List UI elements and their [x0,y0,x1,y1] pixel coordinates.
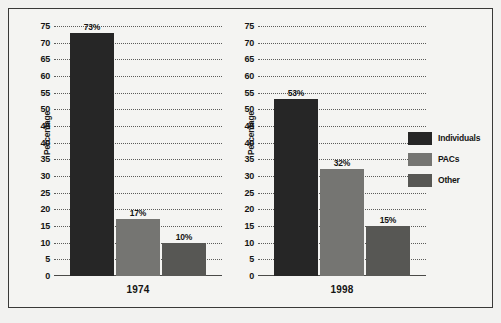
y-tick-label: 40 [232,138,254,148]
y-tick-label: 25 [28,188,50,198]
y-tick-label: 60 [28,71,50,81]
legend-label: Individuals [438,133,480,143]
x-axis-category-label: 1974 [54,284,222,295]
plot-area-1974: 757065605550454035302520151050 73% 17% 1… [54,26,222,276]
legend-swatch-icon [408,132,432,145]
y-tick-label: 0 [232,271,254,281]
bar-other-1998[interactable]: 15% [366,226,410,276]
y-tick-label: 65 [28,54,50,64]
y-tick-label: 45 [28,121,50,131]
y-tick-label: 70 [28,38,50,48]
bar-other-1974[interactable]: 10% [162,243,206,276]
bar-group-1974: 73% 17% 10% [68,26,208,276]
y-tick-label: 75 [28,21,50,31]
y-tick-label: 75 [232,21,254,31]
bar-pacs-1974[interactable]: 17% [116,219,160,276]
y-tick-label: 25 [232,188,254,198]
y-tick-label: 45 [232,121,254,131]
bar-individuals-1998[interactable]: 53% [274,99,318,276]
bar-value-label: 53% [288,88,304,98]
y-tick-label: 60 [232,71,254,81]
y-tick-label: 20 [28,204,50,214]
bar-pacs-1998[interactable]: 32% [320,169,364,276]
legend-label: PACs [438,154,459,164]
chart-figure: Percentage 75706560555045403530252015105… [0,0,501,323]
bar-group-1998: 53% 32% 15% [272,26,412,276]
y-tick-label: 5 [232,254,254,264]
y-tick-label: 55 [28,88,50,98]
y-tick-label: 50 [28,104,50,114]
bar-individuals-1974[interactable]: 73% [70,33,114,276]
plot-area-1998: 757065605550454035302520151050 53% 32% 1… [258,26,426,276]
y-tick-label: 0 [28,271,50,281]
y-tick-label: 70 [232,38,254,48]
bar-value-label: 73% [84,22,100,32]
bar-value-label: 10% [176,232,192,242]
legend-item-individuals[interactable]: Individuals [408,131,494,145]
chart-legend: Individuals PACs Other [408,131,494,194]
chart-panel-1974: Percentage 75706560555045403530252015105… [14,16,234,291]
legend-item-other[interactable]: Other [408,173,494,187]
x-axis-category-label: 1998 [258,284,426,295]
bar-value-label: 32% [334,158,350,168]
y-tick-label: 30 [232,171,254,181]
y-tick-label: 20 [232,204,254,214]
legend-swatch-icon [408,153,432,166]
chart-panel-1998: Percentage 75706560555045403530252015105… [218,16,438,291]
y-tick-label: 10 [28,238,50,248]
y-tick-label: 40 [28,138,50,148]
legend-label: Other [438,175,460,185]
y-tick-label: 15 [232,221,254,231]
y-tick-label: 15 [28,221,50,231]
bar-value-label: 17% [130,208,146,218]
legend-swatch-icon [408,174,432,187]
y-tick-label: 35 [28,154,50,164]
bar-value-label: 15% [380,215,396,225]
y-tick-label: 65 [232,54,254,64]
y-tick-label: 50 [232,104,254,114]
y-tick-label: 10 [232,238,254,248]
y-tick-label: 55 [232,88,254,98]
y-tick-label: 5 [28,254,50,264]
y-tick-label: 35 [232,154,254,164]
legend-item-pacs[interactable]: PACs [408,152,494,166]
y-tick-label: 30 [28,171,50,181]
